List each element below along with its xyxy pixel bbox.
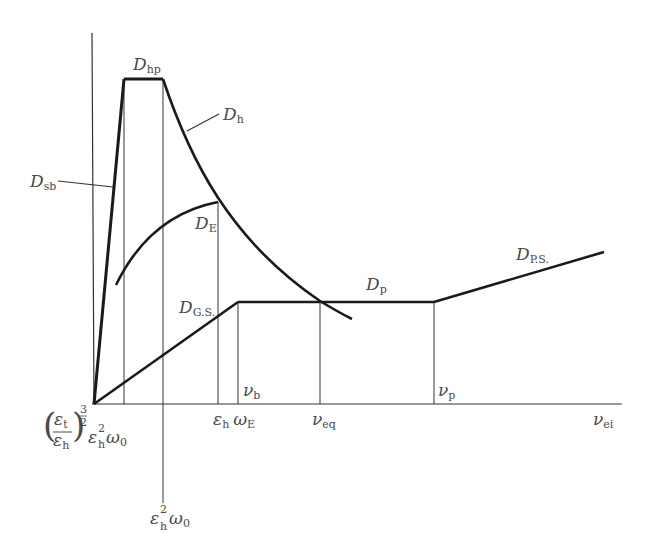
label-d-h: Dh [222,104,244,126]
leader-d-h [187,114,219,131]
label-nu-b: νb [243,380,260,402]
diagram-svg: Dsb Dhp Dh DE DG.S. Dp DP.S. νb νp νeq ν… [0,0,651,556]
label-d-p: Dp [365,274,387,296]
label-d-gs: DG.S. [178,297,215,319]
label-tick2-omega: ω0 [169,508,190,530]
diagram-canvas: Dsb Dhp Dh DE DG.S. Dp DP.S. νb νp νeq ν… [0,0,651,556]
label-x-axis: νei [593,409,614,431]
label-nu-p: νp [438,380,455,402]
curve-d-sb [94,79,124,404]
tick1-exp-den: 2 [80,416,87,429]
label-d-sb: Dsb [29,171,56,193]
tick1-eps-sup: 2 [98,422,105,435]
label-d-ps: DP.S. [515,244,549,266]
y-axis [92,33,94,404]
tick1-eps: ε [88,427,97,447]
leader-d-sb [58,181,113,187]
label-tick2-sub: h [160,520,167,533]
curve-d-gs [94,302,238,404]
tick1-den: εh [53,430,69,452]
tick1-num: εt [54,409,68,431]
label-d-hp: Dhp [132,54,161,76]
label-tick2: ε [150,508,159,528]
label-tick1: ( εt εh ) 3 2 ε 2 h ω0 [43,403,127,452]
label-tick3: εhωE [213,409,255,431]
curve-d-h [163,79,352,319]
tick1-exp-num: 3 [80,403,87,416]
tick1-omega: ω0 [106,427,127,449]
label-nu-eq: νeq [312,409,336,431]
label-d-e: DE [194,213,217,235]
tick1-eps-sub: h [98,438,105,451]
label-tick2-sup: 2 [160,503,167,516]
